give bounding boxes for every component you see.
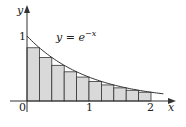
riemann-rectangle bbox=[77, 77, 89, 101]
x-tick-1: 1 bbox=[86, 101, 93, 114]
riemann-rectangle bbox=[27, 48, 39, 101]
riemann-rectangle bbox=[126, 90, 138, 101]
y-tick-1: 1 bbox=[19, 30, 26, 43]
riemann-sum-chart: y x 0 1 2 1 y = e−x bbox=[0, 0, 186, 127]
y-axis-label: y bbox=[16, 4, 24, 17]
riemann-rectangle bbox=[101, 85, 113, 101]
riemann-rectangle bbox=[89, 81, 101, 101]
riemann-rectangle bbox=[139, 92, 151, 101]
riemann-rectangle bbox=[39, 57, 51, 101]
riemann-rectangle bbox=[114, 88, 126, 101]
function-label: y = e−x bbox=[55, 29, 97, 44]
x-tick-0: 0 bbox=[19, 101, 26, 114]
y-axis-arrow-icon bbox=[24, 5, 30, 13]
riemann-rectangle bbox=[64, 72, 76, 101]
riemann-rectangle bbox=[52, 65, 64, 101]
x-axis-label: x bbox=[168, 101, 175, 114]
riemann-rectangles bbox=[27, 48, 151, 101]
x-tick-2: 2 bbox=[147, 101, 154, 114]
